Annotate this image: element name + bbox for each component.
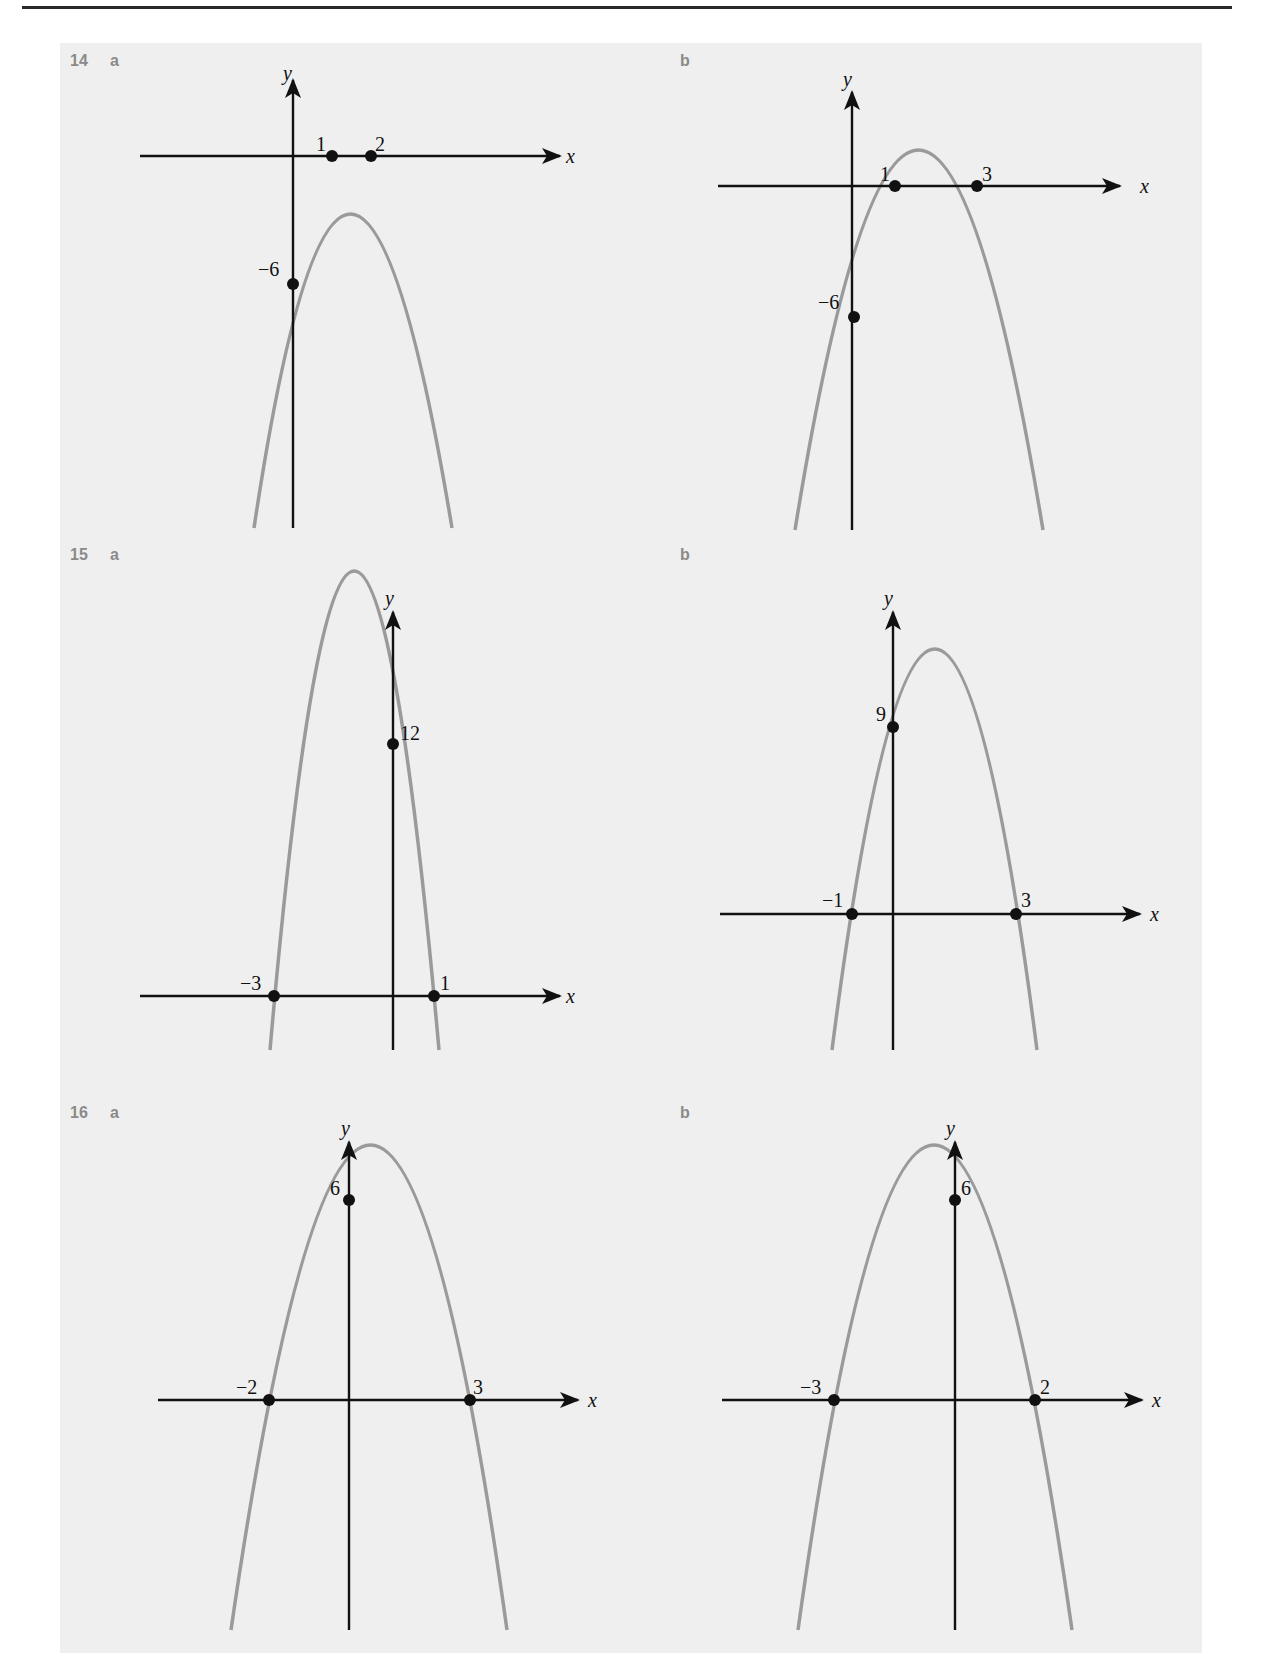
x-intercept-label: 2 <box>375 133 385 155</box>
x-intercept-point <box>268 990 280 1002</box>
graph-16a: x y −2 3 6 <box>158 1117 597 1630</box>
x-intercept-point <box>828 1394 840 1406</box>
y-axis-label: y <box>383 587 394 610</box>
x-intercept-label: 2 <box>1040 1376 1050 1398</box>
x-intercept-label: 3 <box>1021 889 1031 911</box>
x-intercept-point <box>889 180 901 192</box>
x-axis-label: x <box>587 1389 597 1411</box>
y-intercept-point <box>949 1194 961 1206</box>
x-intercept-label: −3 <box>800 1376 821 1398</box>
graph-15b: x y −1 3 9 <box>720 587 1159 1050</box>
parabola-curve <box>832 649 1037 1050</box>
x-axis-label: x <box>565 145 575 167</box>
y-axis-label: y <box>944 1117 955 1140</box>
x-axis-label: x <box>1149 903 1159 925</box>
y-intercept-label: 6 <box>330 1177 340 1199</box>
y-intercept-label: 12 <box>400 722 420 744</box>
y-intercept-label: −6 <box>258 258 279 280</box>
x-intercept-label: 3 <box>473 1376 483 1398</box>
y-axis-label: y <box>882 587 893 610</box>
y-intercept-point <box>848 311 860 323</box>
x-intercept-label: 3 <box>982 163 992 185</box>
y-intercept-point <box>387 738 399 750</box>
y-axis-label: y <box>339 1117 350 1140</box>
graph-16b: x y −3 2 6 <box>722 1117 1161 1630</box>
graph-15a: x y −3 1 12 <box>140 571 575 1050</box>
x-intercept-point <box>428 990 440 1002</box>
x-intercept-point <box>326 150 338 162</box>
y-intercept-label: 9 <box>876 703 886 725</box>
parabola-curve <box>798 1145 1072 1630</box>
y-axis-label: y <box>841 68 852 91</box>
y-intercept-label: 6 <box>961 1177 971 1199</box>
x-intercept-label: −1 <box>822 889 843 911</box>
x-intercept-label: −2 <box>236 1376 257 1398</box>
x-intercept-point <box>263 1394 275 1406</box>
x-intercept-label: 1 <box>880 163 890 185</box>
x-axis-label: x <box>1151 1389 1161 1411</box>
parabola-curve <box>270 571 439 1050</box>
parabola-curve <box>254 214 452 528</box>
y-intercept-point <box>343 1194 355 1206</box>
x-intercept-point <box>846 908 858 920</box>
parabola-curve <box>795 150 1043 530</box>
x-intercept-label: 1 <box>316 133 326 155</box>
x-intercept-label: 1 <box>440 972 450 994</box>
graphs-canvas: x y 1 2 −6 x y 1 3 −6 x y −3 1 12 <box>0 0 1262 1675</box>
parabola-curve <box>231 1145 507 1630</box>
x-axis-label: x <box>1139 175 1149 197</box>
graph-14a: x y 1 2 −6 <box>140 62 575 528</box>
y-intercept-point <box>287 278 299 290</box>
graph-14b: x y 1 3 −6 <box>718 68 1149 530</box>
x-axis-label: x <box>565 985 575 1007</box>
y-intercept-point <box>887 721 899 733</box>
y-intercept-label: −6 <box>818 291 839 313</box>
x-intercept-label: −3 <box>240 972 261 994</box>
y-axis-label: y <box>281 62 292 85</box>
